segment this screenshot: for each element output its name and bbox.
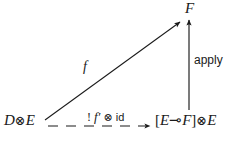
bang-modality: ! (87, 110, 91, 124)
target-tensor-icon: ⊗ (196, 113, 207, 128)
lollipop-icon: ⊸ (169, 112, 182, 128)
source-tensor-icon: ⊗ (15, 113, 26, 128)
target-object: [E⊸F]⊗E (155, 113, 216, 128)
curry-arrow-label: ! f′ ⊗ id (86, 110, 125, 123)
source-right-factor: E (26, 112, 35, 128)
hom-domain: E (160, 112, 169, 128)
f-prime-symbol: f′ (94, 109, 100, 124)
f-arrow-label: f (83, 60, 87, 74)
curry-tensor-icon: ⊗ (103, 111, 112, 123)
source-left-factor: D (4, 112, 15, 128)
source-object: D⊗E (4, 113, 35, 128)
hom-codomain: F (182, 112, 191, 128)
identity-morphism: id (116, 111, 125, 123)
apply-arrow-label: apply (194, 54, 223, 66)
f-arrow-line (45, 22, 180, 120)
apex-object: F (185, 1, 194, 16)
commutative-diagram: D⊗E [E⊸F]⊗E F f ! f′ ⊗ id apply (0, 0, 242, 144)
target-right-factor: E (207, 112, 216, 128)
